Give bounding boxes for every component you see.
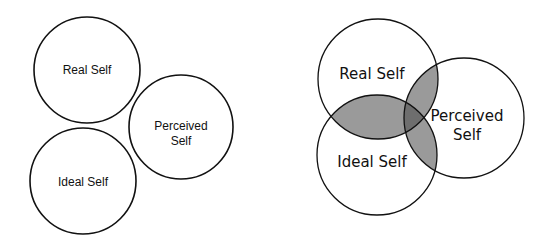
ideal-self-label-overlap: Ideal Self	[337, 153, 407, 171]
ideal-self-label: Ideal Self	[58, 175, 109, 189]
real-self-label: Real Self	[63, 63, 112, 77]
perceived-self-label-overlap-line2: Self	[453, 126, 482, 144]
perceived-self-label-line1: Perceived	[154, 119, 207, 133]
perceived-self-label-overlap-line1: Perceived	[431, 107, 504, 125]
perceived-self-label-line2: Self	[171, 134, 192, 148]
separate-selves-diagram: Real Self Perceived Self Ideal Self	[30, 17, 233, 234]
overlapping-selves-diagram: Real Self Perceived Self Ideal Self	[317, 19, 524, 215]
self-concept-diagrams: Real Self Perceived Self Ideal Self Real…	[0, 0, 547, 245]
real-self-label-overlap: Real Self	[339, 65, 405, 83]
